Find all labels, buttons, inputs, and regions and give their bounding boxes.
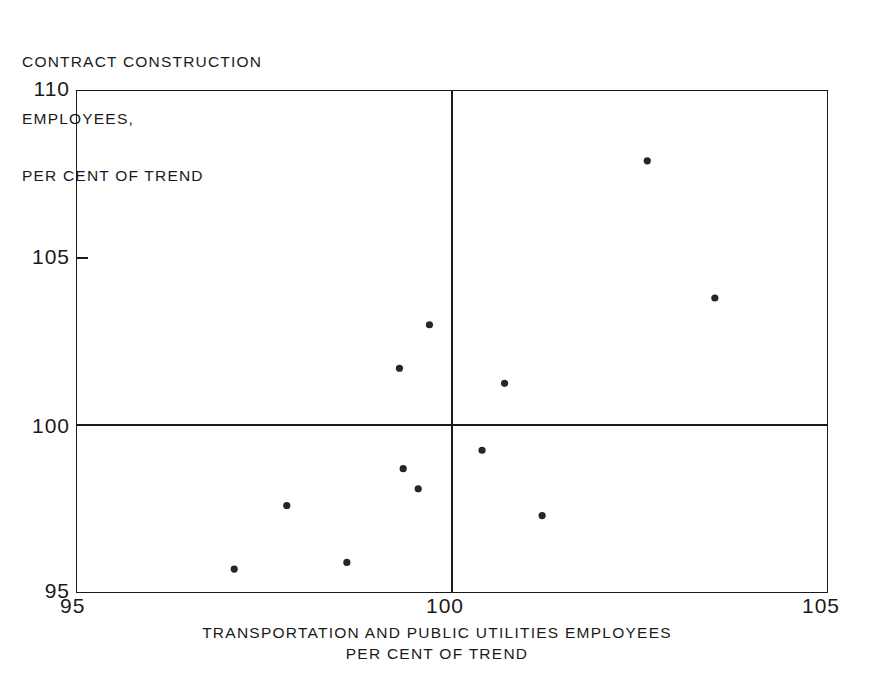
data-point [343,559,350,566]
reference-lines [77,91,828,593]
data-point [501,380,508,387]
data-point [426,321,433,328]
data-point [396,365,403,372]
data-point [400,465,407,472]
data-points [231,157,719,572]
plot-area [0,0,874,683]
data-point [711,294,718,301]
data-point [644,157,651,164]
data-point [231,565,238,572]
data-point [478,447,485,454]
data-point [539,512,546,519]
scatter-plot-figure: CONTRACT CONSTRUCTION EMPLOYEES, PER CEN… [0,0,874,683]
data-point [415,485,422,492]
data-point [283,502,290,509]
